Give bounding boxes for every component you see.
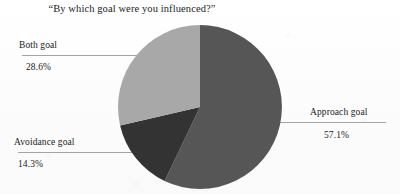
- callout-approach-goal-label: Approach goal: [310, 106, 368, 119]
- callout-avoidance-goal-value: 14.3%: [18, 158, 75, 171]
- callout-both-goal-label: Both goal: [19, 39, 57, 52]
- callout-approach-goal-value: 57.1%: [324, 129, 368, 142]
- callout-approach-goal: Approach goal 57.1%: [310, 106, 368, 142]
- callout-avoidance-goal-label: Avoidance goal: [14, 136, 75, 149]
- callout-both-goal-value: 28.6%: [26, 61, 57, 74]
- pie-chart-figure: “By which goal were you influenced?” Bot…: [0, 0, 400, 194]
- callout-avoidance-goal: Avoidance goal 14.3%: [14, 136, 75, 171]
- callout-both-goal: Both goal 28.6%: [19, 39, 57, 74]
